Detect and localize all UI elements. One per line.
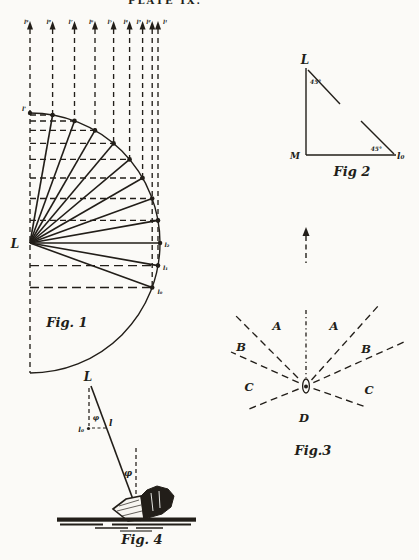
fig1-right-point-label: l₂ — [165, 241, 170, 248]
fig2-lower-angle-label: 45° — [371, 145, 382, 152]
fig2-upper-angle-label: 45° — [310, 78, 321, 85]
fig3-sector-c-left: C — [244, 380, 254, 394]
fig3-bearing-lines — [231, 305, 404, 409]
fig3-sector-c-right: C — [364, 383, 374, 397]
fig3-diagram: A A B B C C D Fig.3 — [231, 227, 404, 458]
fig1-diagram: l⁹ l⁸ l⁷ l⁶ l⁵ l⁴ l³ l² l¹ — [10, 19, 170, 373]
fig1-arrow-label: l¹ — [163, 19, 168, 25]
fig1-right-point-label: l₁ — [163, 264, 168, 271]
fig1-arrow-label: l⁴ — [124, 19, 129, 25]
fig1-arrow-label: l⁵ — [108, 19, 113, 25]
fig4-l-label: l — [109, 418, 113, 428]
fig1-top-point-label: l' — [22, 105, 26, 112]
fig4-l0-label: l₀ — [78, 425, 84, 434]
fig3-up-arrow-icon — [303, 227, 310, 236]
fig3-sector-b-right: B — [360, 342, 371, 356]
fig1-arrow-label: l⁶ — [89, 19, 94, 25]
fig4-water-lines — [57, 518, 196, 532]
fig3-caption: Fig.3 — [294, 443, 332, 458]
fig2-caption: Fig 2 — [333, 164, 371, 179]
plate-header-label: PLATE IX. — [128, 0, 202, 6]
fig3-sector-a-right: A — [329, 319, 339, 333]
fig1-arrow-label: l² — [146, 19, 151, 25]
fig1-right-point-label: l₀ — [158, 288, 163, 295]
fig1-arrow-label: l⁹ — [24, 19, 29, 25]
fig2-apex-label: L — [300, 53, 309, 67]
fig4-diagram: L φ l₀ l φ Fig. 4 — [57, 370, 196, 547]
fig1-arrow-label: l⁸ — [47, 19, 52, 25]
fig3-boat-icon — [303, 379, 310, 393]
plate-page: PLATE IX. l⁹ — [0, 0, 419, 560]
fig1-caption: Fig. 1 — [45, 315, 87, 330]
fig1-dashed-horizontals-lower — [30, 266, 158, 288]
fig2-right-end-label: l₀ — [397, 151, 404, 161]
fig4-top-label: L — [83, 370, 92, 384]
fig1-radius-lines — [30, 115, 160, 288]
fig1-center-label: L — [10, 237, 19, 251]
fig4-boat-icon — [113, 486, 174, 521]
fig2-corner-label: M — [289, 151, 301, 161]
fig3-sector-a-left: A — [272, 319, 282, 333]
fig2-diagram: L 45° M 45° l₀ Fig 2 — [289, 53, 404, 179]
fig4-caption: Fig. 4 — [120, 532, 162, 547]
fig3-sector-d: D — [298, 411, 309, 425]
plate-figures: PLATE IX. l⁹ — [0, 0, 419, 560]
fig3-sector-b-left: B — [235, 340, 246, 354]
fig4-l0-point — [87, 427, 90, 430]
fig1-arrow-label: l³ — [137, 19, 142, 25]
fig4-upper-angle-label: φ — [93, 413, 100, 422]
fig1-arrow-label: l⁷ — [69, 19, 74, 25]
fig4-lower-angle-label: φ — [124, 468, 133, 478]
